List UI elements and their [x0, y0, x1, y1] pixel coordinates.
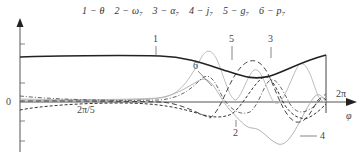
curve-label-3: 3 — [268, 33, 273, 44]
chart-plot — [0, 0, 363, 159]
x-axis-label-phi: φ — [346, 110, 352, 121]
curve-label-1: 1 — [153, 33, 158, 44]
curve-1-theta — [20, 55, 326, 78]
curve-label-4: 4 — [320, 130, 325, 141]
curve-3 — [20, 61, 326, 123]
y-axis-arrow-icon — [17, 18, 24, 27]
y-zero-label: 0 — [6, 96, 11, 107]
curve-6 — [20, 76, 326, 113]
x-tick-2pi-over-5: 2π/5 — [77, 104, 95, 115]
y-ticks — [20, 44, 25, 141]
x-tick-2pi: 2π — [336, 88, 346, 99]
x-axis-arrow-icon — [346, 98, 357, 106]
curve-4-jerk — [20, 79, 326, 144]
curve-5 — [20, 51, 326, 103]
curve-label-5: 5 — [229, 33, 234, 44]
curve-label-6: 6 — [193, 60, 198, 71]
curve-label-2: 2 — [233, 127, 238, 138]
